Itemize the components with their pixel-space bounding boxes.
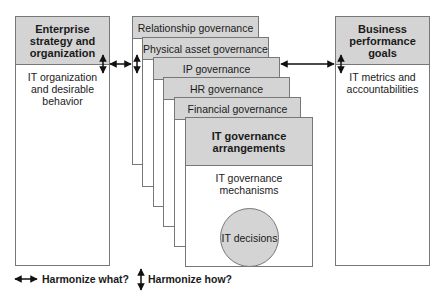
connector-arrows <box>0 0 445 305</box>
legend-harmonize-how: Harmonize how? <box>148 273 232 285</box>
legend-harmonize-what: Harmonize what? <box>42 273 129 285</box>
